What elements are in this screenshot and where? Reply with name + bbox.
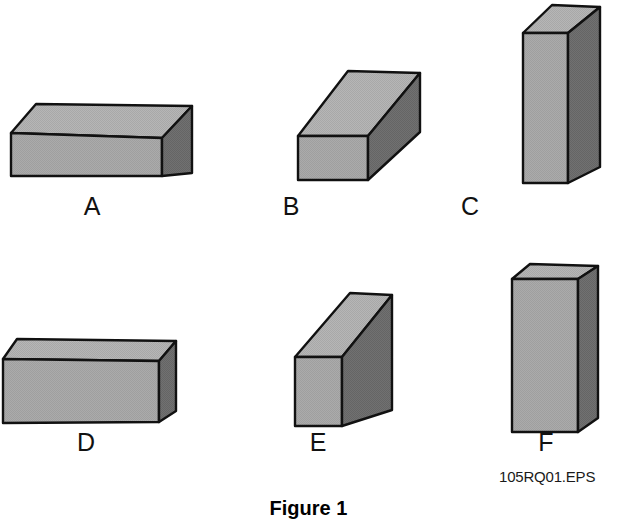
shape-label-a: A [62, 194, 122, 219]
solid-b [298, 71, 420, 180]
solid-e [295, 293, 392, 426]
solid-d [3, 339, 176, 423]
eps-filename-label: 105RQ01.EPS [499, 468, 595, 485]
shape-label-d: D [56, 430, 116, 455]
figure-caption: Figure 1 [0, 497, 617, 520]
solid-e-front-face [295, 357, 342, 426]
shape-label-b: B [261, 194, 321, 219]
shape-label-f: F [516, 430, 576, 455]
solid-f-side-face [578, 266, 598, 432]
solid-d-top-face [3, 339, 176, 361]
solid-b-front-face [298, 136, 368, 180]
solid-f-front-face [512, 279, 578, 432]
solid-c [523, 5, 600, 183]
solid-c-side-face [568, 7, 600, 183]
solid-c-front-face [523, 33, 568, 183]
solid-f [512, 264, 598, 432]
solid-d-front-face [3, 359, 159, 423]
shape-label-e: E [288, 430, 348, 455]
solid-a-front-face [11, 133, 162, 176]
solid-a [11, 104, 192, 176]
shape-label-c: C [440, 194, 500, 219]
